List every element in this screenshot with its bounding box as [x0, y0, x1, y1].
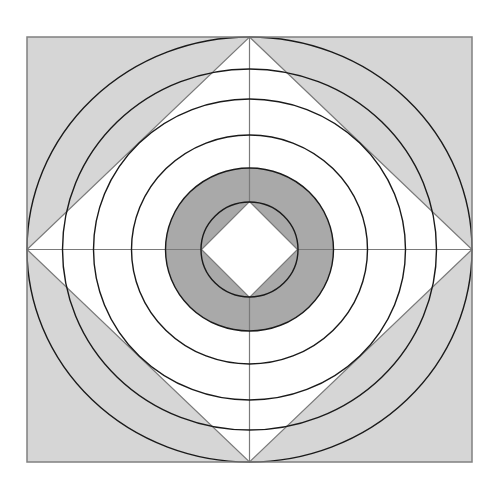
- concentric-rings-diagram: [0, 0, 500, 495]
- diagram-canvas: [0, 0, 500, 495]
